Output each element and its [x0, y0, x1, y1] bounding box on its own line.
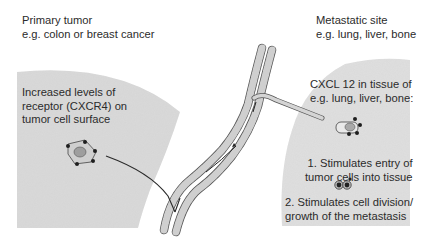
- receptor-line: tumor cell surface: [22, 113, 127, 127]
- receptor-dot: [93, 149, 97, 153]
- metastatic-site-label: Metastatic site e.g. lung, liver, bone: [316, 14, 416, 41]
- step1-line: tumor cells into tissue: [305, 171, 413, 185]
- receptor-annotation: Increased levels of receptor (CXCR4) on …: [22, 86, 127, 127]
- receptor-dot: [91, 159, 95, 163]
- primary-tumor-label: Primary tumor e.g. colon or breast cance…: [22, 14, 154, 41]
- primary-tumor-title: Primary tumor: [22, 14, 154, 28]
- receptor-line: Increased levels of: [22, 86, 127, 100]
- step2-line: growth of the metastasis: [285, 210, 413, 224]
- cxcl-line: CXCL 12 in tissue of: [310, 78, 413, 92]
- receptor-line: receptor (CXCR4) on: [22, 100, 127, 114]
- step1-annotation: 1. Stimulates entry of tumor cells into …: [305, 157, 413, 184]
- receptor-dot: [358, 123, 362, 127]
- receptor-dot: [355, 131, 359, 135]
- cxcl-line: e.g. lung, liver, bone:: [310, 92, 413, 106]
- receptor-dot: [83, 140, 87, 144]
- primary-tumor-subtitle: e.g. colon or breast cancer: [22, 28, 154, 42]
- step2-line: 2. Stimulates cell division/: [285, 196, 413, 210]
- receptor-dot: [66, 144, 70, 148]
- receptor-dot: [353, 117, 357, 121]
- metastatic-site-subtitle: e.g. lung, liver, bone: [316, 28, 416, 42]
- receptor-dot: [347, 132, 351, 136]
- cxcl12-annotation: CXCL 12 in tissue of e.g. lung, liver, b…: [310, 78, 413, 105]
- receptor-dot: [75, 162, 79, 166]
- metastatic-site-title: Metastatic site: [316, 14, 416, 28]
- step2-annotation: 2. Stimulates cell division/ growth of t…: [285, 196, 413, 223]
- step1-line: 1. Stimulates entry of: [305, 157, 413, 171]
